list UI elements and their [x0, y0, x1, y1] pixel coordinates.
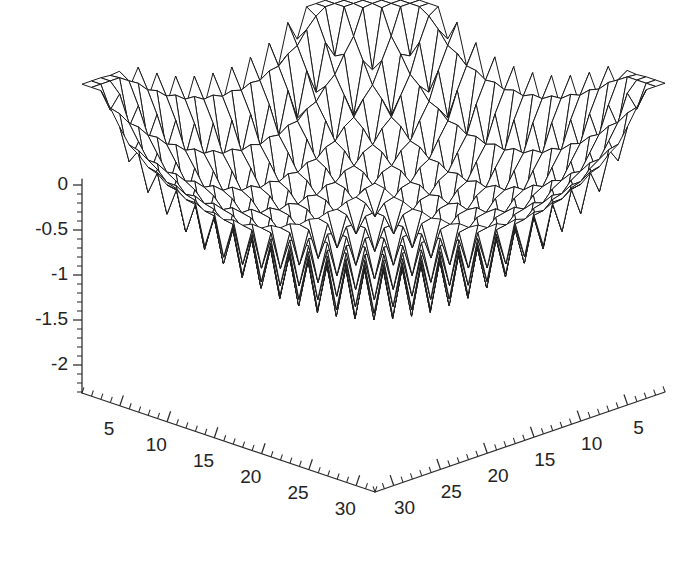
- right-axis-tick-label: 15: [534, 449, 555, 470]
- z-axis-tick-label: -2: [51, 353, 68, 374]
- surface-plot-figure: 0-0.5-1-1.5-25101520253051015202530: [0, 0, 693, 584]
- z-axis-tick-label: -0.5: [35, 218, 68, 239]
- left-axis-tick-label: 15: [193, 450, 214, 471]
- plot-canvas: 0-0.5-1-1.5-25101520253051015202530: [0, 0, 693, 584]
- right-axis-tick-label: 5: [633, 417, 644, 438]
- left-axis-tick-label: 25: [288, 482, 309, 503]
- left-axis-tick-label: 20: [240, 466, 261, 487]
- left-axis-tick-label: 5: [104, 418, 115, 439]
- z-axis-tick-label: 0: [57, 173, 68, 194]
- right-axis-tick-label: 30: [394, 497, 415, 518]
- left-axis-tick-label: 30: [335, 498, 356, 519]
- left-axis-tick-label: 10: [146, 434, 167, 455]
- right-axis-tick-label: 10: [581, 433, 602, 454]
- z-axis-tick-label: -1.5: [35, 308, 68, 329]
- right-axis-tick-label: 20: [488, 465, 509, 486]
- right-axis-tick-label: 25: [441, 481, 462, 502]
- z-axis-tick-label: -1: [51, 263, 68, 284]
